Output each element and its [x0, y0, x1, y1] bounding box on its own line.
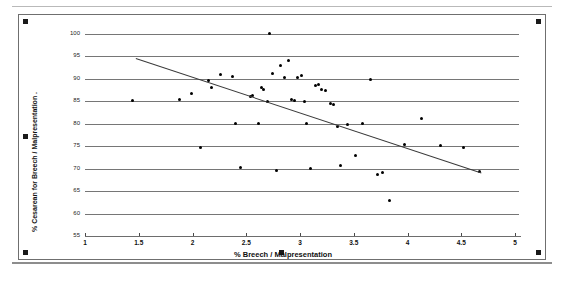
data-point	[210, 86, 213, 89]
scatter-plot: % Cesarean for Breech / Malpresentation …	[19, 15, 547, 261]
data-point	[271, 72, 274, 75]
data-point	[257, 122, 260, 125]
gridline	[85, 169, 519, 170]
gridline	[85, 214, 519, 215]
data-point	[324, 89, 327, 92]
gridline	[85, 34, 519, 35]
y-tick-label: 95	[58, 52, 80, 58]
x-tick-mark	[515, 233, 516, 236]
data-point	[131, 99, 134, 102]
data-point	[279, 64, 282, 67]
y-tick-label: 65	[58, 187, 80, 193]
page-rule-top	[12, 6, 552, 7]
scanned-page-canvas: % Cesarean for Breech / Malpresentation …	[0, 0, 563, 289]
x-axis-title: % Breech / Malpresentation	[19, 250, 547, 259]
data-point	[262, 88, 265, 91]
data-point	[309, 167, 312, 170]
data-point	[346, 123, 349, 126]
data-point	[462, 146, 465, 149]
gridline	[85, 191, 519, 192]
y-tick-label: 85	[58, 97, 80, 103]
data-point	[219, 73, 222, 76]
gridline	[85, 124, 519, 125]
y-tick-label: 55	[58, 232, 80, 238]
chart-object-frame[interactable]: % Cesarean for Breech / Malpresentation …	[18, 14, 546, 260]
x-tick-label: 3.5	[344, 239, 364, 246]
data-point	[305, 122, 308, 125]
x-tick-mark	[300, 233, 301, 236]
y-axis-title: % Cesarean for Breech / Malpresentation …	[31, 92, 38, 232]
y-tick-label: 90	[58, 75, 80, 81]
data-point	[332, 103, 335, 106]
x-tick-mark	[461, 233, 462, 236]
data-point	[403, 143, 406, 146]
y-tick-label: 60	[58, 210, 80, 216]
x-tick-label: 4.5	[451, 239, 471, 246]
gridline	[85, 146, 519, 147]
data-point	[420, 117, 423, 120]
x-tick-label: 1.5	[129, 239, 149, 246]
data-point	[339, 164, 342, 167]
x-tick-label: 5	[505, 239, 525, 246]
data-point	[300, 74, 303, 77]
y-tick-label: 70	[58, 165, 80, 171]
data-point	[275, 169, 278, 172]
x-tick-mark	[193, 233, 194, 236]
data-point	[287, 59, 290, 62]
x-tick-mark	[246, 233, 247, 236]
data-point	[231, 75, 234, 78]
data-point	[376, 173, 379, 176]
x-tick-mark	[139, 233, 140, 236]
data-point	[320, 88, 323, 91]
x-axis-line	[85, 236, 521, 237]
data-point	[381, 171, 384, 174]
x-tick-label: 3	[290, 239, 310, 246]
data-point	[388, 199, 391, 202]
data-point	[354, 154, 357, 157]
y-tick-label: 80	[58, 120, 80, 126]
x-tick-label: 2.5	[236, 239, 256, 246]
data-point	[361, 122, 364, 125]
data-point	[234, 122, 237, 125]
x-tick-label: 2	[183, 239, 203, 246]
data-point	[303, 100, 306, 103]
y-tick-label: 75	[58, 142, 80, 148]
gridline	[85, 56, 519, 57]
x-tick-label: 4	[398, 239, 418, 246]
x-tick-mark	[85, 233, 86, 236]
x-tick-mark	[354, 233, 355, 236]
x-tick-mark	[408, 233, 409, 236]
trendline	[135, 58, 480, 173]
gridline	[85, 79, 519, 80]
y-tick-label: 100	[58, 30, 80, 36]
x-tick-label: 1	[75, 239, 95, 246]
page-rule-bottom	[12, 262, 552, 264]
data-point	[317, 83, 320, 86]
data-point	[199, 146, 202, 149]
data-point	[190, 92, 193, 95]
